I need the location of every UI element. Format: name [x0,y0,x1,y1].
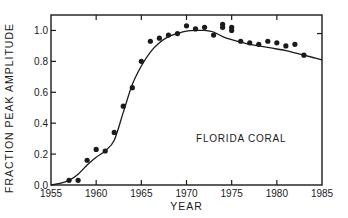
data-point [121,104,126,109]
y-tick-label: 0.2 [34,149,48,160]
x-tick-label: 1980 [266,188,289,199]
data-point [157,36,162,41]
data-point [184,23,189,28]
y-axis-title: FRACTION PEAK AMPLITUDE [3,23,15,193]
chart: 1955196019651970197519801985 0.00.20.40.… [0,0,348,218]
data-point [193,26,198,31]
data-point [274,40,279,45]
data-point [229,28,234,33]
y-tick-label: 0.6 [34,87,48,98]
x-tick-label: 1975 [221,188,244,199]
x-tick-label: 1985 [311,188,334,199]
x-axis-title: YEAR [170,200,203,212]
y-tick-label: 0.0 [34,180,48,191]
y-tick-label: 0.8 [34,56,48,67]
data-point [220,25,225,30]
data-point [256,42,261,47]
data-point [148,39,153,44]
data-point [247,40,252,45]
data-point [238,39,243,44]
x-tick-label: 1965 [130,188,153,199]
data-point [202,25,207,30]
data-point [301,53,306,58]
data-point [130,85,135,90]
y-tick-label: 0.4 [34,118,48,129]
data-point [112,130,117,135]
data-point [292,42,297,47]
data-point [211,32,216,37]
data-point [139,59,144,64]
data-point [103,148,108,153]
data-point [283,43,288,48]
data-point [76,178,81,183]
data-point [175,31,180,36]
data-point [166,32,171,37]
y-tick-label: 1.0 [34,25,48,36]
florida-coral-label: FLORIDA CORAL [196,133,286,144]
data-point [265,39,270,44]
x-tick-label: 1960 [85,188,108,199]
x-tick-label: 1970 [175,188,198,199]
data-point [66,178,71,183]
data-point [85,158,90,163]
data-point [94,147,99,152]
